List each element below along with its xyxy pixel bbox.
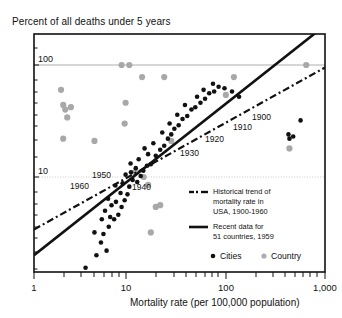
data-point: [109, 203, 114, 208]
data-point: [58, 87, 64, 93]
legend-entry-0-line-0: Historical trend of: [213, 187, 271, 196]
year-annotation: 1940: [132, 182, 151, 192]
data-point: [139, 74, 145, 80]
data-point: [125, 192, 130, 197]
data-point: [123, 172, 128, 177]
data-point: [128, 24, 134, 30]
data-point: [195, 95, 200, 100]
data-point: [161, 74, 167, 80]
data-point: [176, 123, 181, 128]
legend-country-dot-icon: [261, 253, 266, 258]
data-point: [60, 136, 66, 142]
legend-country-label: Country: [271, 251, 302, 261]
data-point: [142, 146, 147, 151]
data-point: [151, 141, 156, 146]
data-point: [118, 191, 123, 196]
data-point: [100, 217, 105, 222]
data-point: [116, 212, 121, 217]
data-point: [114, 200, 119, 205]
data-point: [128, 161, 133, 166]
data-point: [108, 215, 113, 220]
data-point: [62, 106, 68, 112]
data-point: [136, 157, 141, 162]
year-annotation: 1960: [70, 181, 89, 191]
data-point: [189, 107, 194, 112]
plot-area: 100 10: [0, 0, 342, 318]
data-point: [230, 89, 235, 94]
data-point: [193, 105, 198, 110]
data-point: [92, 230, 97, 235]
data-point: [122, 120, 128, 126]
data-point: [64, 114, 70, 120]
data-point: [211, 81, 216, 86]
data-point: [141, 168, 146, 173]
data-point: [207, 91, 212, 96]
data-point: [106, 196, 111, 201]
data-point: [158, 147, 163, 152]
year-annotation: 1920: [205, 134, 224, 144]
legend-cities-dot-icon: [211, 254, 216, 259]
data-point: [122, 198, 127, 203]
data-point: [113, 183, 118, 188]
data-point: [129, 170, 134, 175]
data-point: [112, 217, 117, 222]
data-point: [216, 84, 221, 89]
series-country-points: [58, 24, 309, 236]
data-point: [183, 103, 188, 108]
data-point: [185, 114, 190, 119]
data-point: [68, 104, 74, 110]
data-point: [286, 145, 292, 151]
data-point: [203, 96, 208, 101]
gridlines: [34, 65, 325, 177]
trend-line: [34, 29, 321, 255]
chart-figure: Percent of all deaths under 5 years Mort…: [0, 0, 342, 318]
year-annotation: 1930: [180, 148, 199, 158]
data-point: [83, 265, 88, 270]
legend-trend-lines: Historical trend of mortality rate in US…: [189, 187, 274, 241]
data-point: [104, 248, 109, 253]
legend-entry-1-line-1: 51 countries, 1959: [213, 232, 274, 241]
year-annotation: 1950: [92, 170, 111, 180]
data-point: [99, 240, 104, 245]
data-point: [237, 95, 242, 100]
data-point: [212, 89, 217, 94]
y-tick-label-1: 10: [38, 166, 48, 176]
data-point: [167, 121, 172, 126]
data-point: [291, 134, 296, 139]
data-point: [160, 130, 165, 135]
legend-entry-0-line-2: USA, 1900-1960: [213, 207, 268, 216]
data-point: [101, 232, 106, 237]
legend-entry-1-line-0: Recent data for: [213, 222, 264, 231]
data-point: [198, 100, 203, 105]
year-annotation: 1910: [233, 122, 252, 132]
data-point: [231, 74, 237, 80]
x-tick-label-3: 1,000: [313, 282, 337, 293]
data-point: [106, 224, 111, 229]
data-point: [180, 117, 185, 122]
data-point: [126, 62, 132, 68]
data-point: [286, 132, 291, 137]
legend-markers: Cities Country: [211, 251, 302, 261]
data-point: [149, 162, 154, 167]
data-point: [162, 143, 167, 148]
data-point: [172, 126, 177, 131]
data-point: [303, 62, 309, 68]
trend-line-recent: [34, 29, 321, 255]
legend-cities-label: Cities: [220, 251, 242, 261]
data-point: [91, 138, 97, 144]
data-point: [119, 62, 125, 68]
legend-entry-0-line-1: mortality rate in: [213, 197, 264, 206]
data-point: [127, 184, 132, 189]
x-tick-label-1: 10: [121, 282, 132, 293]
data-point: [222, 86, 227, 91]
data-point: [201, 88, 206, 93]
data-point: [146, 152, 151, 157]
data-point: [175, 112, 180, 117]
data-point: [166, 136, 171, 141]
data-point: [120, 181, 125, 186]
year-annotation: 1900: [252, 112, 271, 122]
data-point: [298, 118, 303, 123]
data-point: [133, 166, 138, 171]
x-tick-label-0: 1: [31, 282, 36, 293]
data-point: [138, 174, 143, 179]
